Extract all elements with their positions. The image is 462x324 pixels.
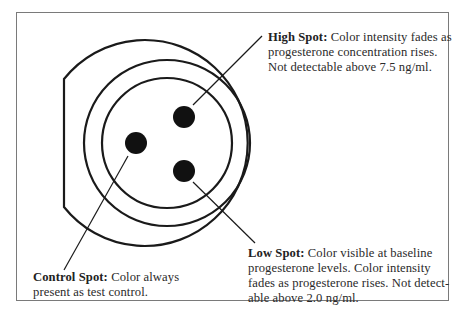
inner-ring [102,78,232,208]
outer-ring [64,40,248,246]
control-spot-heading: Control Spot: [33,270,108,284]
low-spot-leader [193,182,255,243]
high-spot-label: High Spot: Color intensity fades as prog… [268,30,453,75]
high-spot [173,106,195,128]
high-spot-leader [193,36,262,105]
low-spot-heading: Low Spot: [248,246,305,260]
high-spot-heading: High Spot: [268,30,327,44]
low-spot [173,160,195,182]
middle-ring [84,60,250,226]
control-spot-label: Control Spot: Color always present as te… [33,270,223,300]
control-spot [125,132,147,154]
low-spot-label: Low Spot: Color visible at baseline prog… [248,246,448,306]
control-spot-leader [64,156,128,270]
